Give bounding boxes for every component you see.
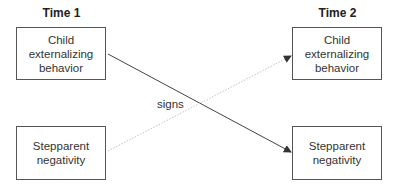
- t1-child-externalizing-box: Child externalizing behavior: [16, 27, 106, 80]
- node-text: Child: [305, 33, 370, 47]
- node-text: externalizing: [305, 47, 370, 61]
- node-text: negativity: [309, 153, 365, 167]
- node-text: negativity: [33, 153, 89, 167]
- t2-child-externalizing-box: Child externalizing behavior: [292, 27, 382, 80]
- node-text: behavior: [305, 61, 370, 75]
- t1-stepparent-negativity-box: Stepparent negativity: [16, 126, 106, 180]
- node-text: behavior: [29, 61, 94, 75]
- node-text: Child: [29, 33, 94, 47]
- node-text: externalizing: [29, 47, 94, 61]
- edge-label-signs: signs: [157, 98, 184, 110]
- t2-stepparent-negativity-box: Stepparent negativity: [292, 126, 382, 180]
- node-text: Stepparent: [33, 139, 89, 153]
- node-text: Stepparent: [309, 139, 365, 153]
- diagram-canvas: Time 1 Time 2 Child externalizing behavi…: [0, 0, 399, 189]
